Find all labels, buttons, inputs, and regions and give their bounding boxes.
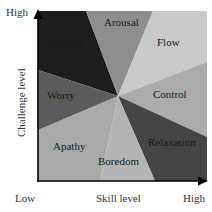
label-worry: Worry: [47, 89, 75, 101]
label-boredom: Boredom: [98, 155, 139, 167]
y-axis-high-label: High: [6, 6, 29, 18]
label-apathy: Apathy: [53, 140, 86, 152]
x-axis-title: Skill level: [96, 192, 141, 204]
flow-diagram: Anxiety Arousal Flow Control Relaxation …: [0, 0, 212, 212]
y-axis-title: Challenge level: [15, 68, 27, 137]
x-axis-low-label: Low: [15, 192, 35, 204]
label-arousal: Arousal: [104, 16, 139, 28]
label-control: Control: [153, 88, 187, 100]
label-flow: Flow: [157, 36, 180, 48]
label-anxiety: Anxiety: [49, 36, 85, 48]
x-axis-high-label: High: [183, 192, 206, 204]
label-relaxation: Relaxation: [148, 136, 196, 148]
